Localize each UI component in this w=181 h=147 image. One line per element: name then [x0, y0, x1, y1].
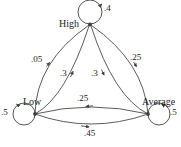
edge-low-to-average-arrow	[81, 126, 89, 127]
edge-low-to-average	[35, 114, 148, 124]
edge-high-to-average-inner	[91, 26, 148, 114]
edge-high-to-average-inner-arrow	[102, 70, 105, 76]
node-label-average: Average	[142, 97, 175, 107]
self-loop-label-high: .4	[104, 4, 111, 13]
edge-label-low-to-high-inner: .3	[60, 69, 67, 78]
self-loop-high-arrow	[100, 4, 102, 6]
node-dot-low[interactable]	[33, 112, 37, 116]
self-loop-label-low: .5	[1, 108, 8, 117]
edge-high-to-average-outer	[91, 25, 148, 114]
edge-label-high-to-average-inner: .3	[91, 69, 98, 78]
edge-label-low-to-high-outer: .05	[31, 55, 42, 64]
self-loop-label-average: .5	[170, 108, 177, 117]
edge-label-high-to-average-outer: .25	[130, 53, 141, 62]
edge-label-average-to-low: .25	[77, 94, 88, 103]
edge-average-to-low	[35, 107, 148, 114]
edge-high-to-average-outer-arrow	[134, 62, 137, 67]
node-label-high: High	[59, 19, 79, 29]
edge-low-to-high-inner-arrow	[71, 72, 74, 78]
state-transition-diagram: High Low Average .4 .5 .5 .05 .25 .3 .3 …	[0, 0, 181, 147]
node-label-low: Low	[23, 97, 41, 107]
node-dot-high[interactable]	[88, 23, 92, 27]
node-dot-average[interactable]	[146, 112, 150, 116]
edge-label-low-to-average: .45	[84, 129, 95, 138]
edge-average-to-low-arrow	[86, 106, 93, 107]
self-loop-high	[78, 0, 102, 24]
